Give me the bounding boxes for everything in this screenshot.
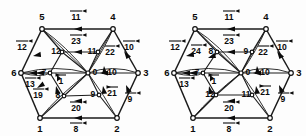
inner-vertex-label: 11	[241, 89, 250, 99]
edge-label: 11	[71, 12, 80, 22]
vertex-label: 1	[37, 123, 43, 134]
inner-vertex-label: 9	[91, 89, 96, 99]
inner-vertex-label: 7	[195, 67, 200, 77]
inner-vertex-label: 10	[107, 67, 117, 77]
vertex-label: 4	[110, 11, 116, 22]
edge-label: 24	[191, 46, 201, 56]
right-graph-figure: 6 5 4 3 2 1 8 9 7 0 10 12 11 11 23 12 24	[153, 0, 306, 136]
edge-label-group: 13	[179, 76, 195, 89]
edge-label: 21	[260, 87, 270, 97]
vertex-label: 3	[296, 67, 301, 78]
edge-label-group: 12	[16, 39, 33, 52]
vertex-label: 4	[263, 11, 269, 22]
vertex-label: 6	[11, 67, 16, 78]
edge-label-group: 22	[258, 44, 274, 57]
edge-label-group: 23	[70, 33, 87, 46]
edge-label-group: 21	[107, 85, 119, 98]
edge-label: 20	[71, 103, 81, 113]
edge-label-group: 24	[191, 43, 207, 56]
edge-label-group: 11	[223, 9, 240, 22]
edge-label: 8	[74, 124, 79, 134]
edge-label-group: 9	[278, 91, 294, 104]
edge-label-group: 10	[123, 39, 140, 52]
vertex-label: 5	[39, 11, 45, 22]
edge-label: 9	[128, 94, 133, 104]
vertex-label: 6	[164, 67, 169, 78]
edge-label: 23	[71, 36, 81, 46]
edge-label: 19	[33, 90, 43, 100]
inner-vertex-label: 9	[244, 46, 249, 56]
inner-vertex-label: 11	[87, 46, 96, 56]
edge-label-group: 10	[276, 39, 293, 52]
edge-label: 10	[124, 42, 134, 52]
edge-label-group: 21	[260, 84, 272, 97]
vertex-label: 2	[114, 123, 119, 134]
edge-label: 13	[25, 79, 35, 89]
edge-label: 20	[224, 103, 234, 113]
edge-label-group: 19	[33, 87, 49, 100]
edge-label: 9	[281, 94, 286, 104]
vertex-label: 3	[143, 67, 148, 78]
inner-vertex-label: 0	[246, 67, 251, 77]
edge-label-group: 22	[105, 44, 120, 57]
inner-vertex-label: 10	[260, 67, 270, 77]
edge-label: 12	[170, 42, 180, 52]
left-graph-figure: 6 5 4 3 2 1 12 11 7 0 10 8 9 11 23 12 10	[0, 0, 153, 136]
edge-label-group: 8	[223, 121, 240, 134]
edge-label: 10	[277, 42, 287, 52]
vertex-label: 5	[192, 11, 198, 22]
inner-vertex-label: 12	[51, 46, 61, 56]
edge-label-group: 8	[70, 121, 87, 134]
edge-label: 1	[59, 76, 64, 86]
edge-label: 22	[258, 47, 268, 57]
vertex-label: 1	[190, 123, 196, 134]
edge-label: 23	[224, 36, 234, 46]
edge-label: 22	[105, 47, 115, 57]
inner-vertex-label: 8	[56, 90, 61, 100]
figure-canvas: 6 5 4 3 2 1 12 11 7 0 10 8 9 11 23 12 10	[0, 0, 306, 136]
edge-label: 12	[17, 42, 27, 52]
edge-label: 13	[179, 79, 189, 89]
vertex-label: 2	[267, 123, 272, 134]
edge-label-group: 23	[223, 33, 240, 46]
edge-label: 21	[107, 88, 117, 98]
inner-vertex-label: 0	[93, 67, 98, 77]
edge-label-group: 11	[70, 9, 87, 22]
edge-label-group: 20	[70, 100, 87, 113]
inner-vertex-label: 12	[205, 89, 215, 99]
inner-vertex-label: 7	[42, 67, 47, 77]
edge-label: 11	[224, 12, 233, 22]
edge-label-group: 9	[125, 91, 141, 104]
edge-label: 1	[212, 76, 217, 86]
inner-vertex-label: 8	[209, 46, 214, 56]
edge-label-group: 12	[169, 39, 186, 52]
edge-label: 8	[227, 124, 232, 134]
edge-label-group: 20	[223, 100, 240, 113]
